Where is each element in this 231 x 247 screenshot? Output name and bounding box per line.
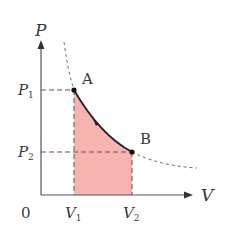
x-axis-arrow-icon [184,192,193,199]
origin-label: 0 [21,206,31,221]
v2-subscript: 2 [134,213,140,223]
pv-diagram: P V 0 A B P1 P2 V1 V2 [0,0,231,247]
v1-subscript: 1 [76,213,82,223]
v1-label: V1 [65,206,82,223]
p2-label: P2 [18,145,34,162]
p1-subscript: 1 [28,90,34,100]
point-b-dot [129,149,134,154]
isotherm-dashed-curve [64,42,74,90]
isotherm-dashed-tail [132,152,197,168]
y-axis-label: P [35,22,46,39]
p1-symbol: P [18,81,28,99]
x-axis-label: V [201,187,213,204]
point-b-label: B [140,132,151,147]
point-a-label: A [82,72,93,87]
p2-subscript: 2 [28,152,34,162]
p2-symbol: P [18,143,28,161]
y-axis-arrow-icon [38,40,45,49]
point-a-dot [71,87,76,92]
p1-label: P1 [18,83,34,100]
v1-symbol: V [65,204,76,222]
v2-label: V2 [123,206,140,223]
work-area [74,90,132,195]
v2-symbol: V [123,204,134,222]
